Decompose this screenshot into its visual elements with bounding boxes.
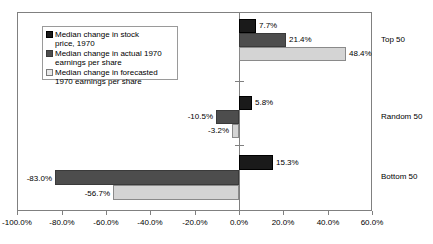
x-axis-tick [62,211,63,215]
bar-value-label-bottom50-stock-price: 15.3% [276,158,299,167]
x-axis-tick [372,211,373,215]
x-axis-label-1: -80.0% [49,218,74,228]
chart-legend: Median change in stock price, 1970 Media… [42,26,178,80]
legend-item-forecast-eps: Median change in forecasted 1970 earning… [46,68,175,86]
dark-gray-square-swatch-icon [46,50,53,57]
x-axis-label-8: 60.0% [361,218,384,228]
bar-value-label-top50-actual-eps: 21.4% [289,35,312,44]
x-axis-label-0: -100.0% [2,218,32,228]
legend-item-actual-eps: Median change in actual 1970 earnings pe… [46,49,175,67]
bar-bottom50-actual-eps [55,170,239,185]
x-axis-label-7: 40.0% [317,218,340,228]
bar-bottom50-stock-price [239,155,273,170]
bar-value-label-random50-stock-price: 5.8% [255,98,273,107]
bar-value-label-top50-stock-price: 7.7% [259,21,277,30]
legend-label-forecast-eps: Median change in forecasted 1970 earning… [55,68,158,86]
bar-value-label-top50-forecast-eps: 48.4% [349,49,372,58]
bar-top50-actual-eps [239,33,286,47]
category-separator-tick [235,145,244,146]
bar-random50-forecast-eps [232,124,239,138]
x-axis-tick [17,211,18,215]
category-label-bottom50: Bottom 50 [381,172,417,182]
category-label-random50: Random 50 [381,112,422,122]
legend-label-actual-eps: Median change in actual 1970 earnings pe… [55,49,162,67]
x-axis-label-3: -40.0% [137,218,162,228]
category-label-top50: Top 50 [381,35,405,45]
category-separator-tick [235,81,244,82]
x-axis-tick [150,211,151,215]
x-axis-label-5: 0.0% [230,218,248,228]
x-axis-tick [239,211,240,215]
black-square-swatch-icon [46,31,53,38]
x-axis-tick [195,211,196,215]
x-axis-tick [106,211,107,215]
x-axis-label-6: 20.0% [272,218,295,228]
bar-bottom50-forecast-eps [113,185,239,200]
light-gray-square-swatch-icon [46,69,53,76]
x-axis-tick [283,211,284,215]
bar-top50-stock-price [239,19,256,33]
x-axis-tick [328,211,329,215]
bar-top50-forecast-eps [239,47,346,61]
bar-value-label-bottom50-forecast-eps: -56.7% [78,189,110,198]
bar-random50-stock-price [239,96,252,110]
bar-random50-actual-eps [216,110,239,124]
bar-value-label-random50-actual-eps: -10.5% [185,112,213,121]
bar-chart: 7.7% 21.4% 48.4% Top 50 5.8% -10.5% -3.2… [0,0,433,244]
x-axis-label-4: -20.0% [182,218,207,228]
x-axis-label-2: -60.0% [93,218,118,228]
bar-value-label-bottom50-actual-eps: -83.0% [20,174,52,183]
bar-value-label-random50-forecast-eps: -3.2% [200,126,229,135]
legend-label-stock-price: Median change in stock price, 1970 [55,30,139,48]
legend-item-stock-price: Median change in stock price, 1970 [46,30,175,48]
